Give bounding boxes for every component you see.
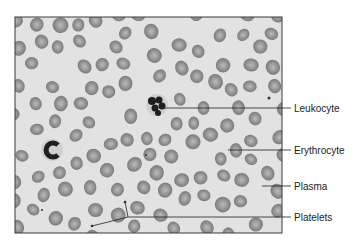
label-platelets: Platelets bbox=[294, 212, 332, 223]
label-leukocyte: Leukocyte bbox=[294, 103, 340, 114]
blood-smear-figure: Leukocyte Erythrocyte Plasma Platelets bbox=[0, 0, 360, 246]
labels: Leukocyte Erythrocyte Plasma Platelets bbox=[294, 103, 345, 223]
leukocyte-center bbox=[146, 94, 168, 116]
label-erythrocyte: Erythrocyte bbox=[294, 145, 345, 156]
label-plasma: Plasma bbox=[294, 181, 328, 192]
leukocyte-left bbox=[41, 139, 63, 161]
